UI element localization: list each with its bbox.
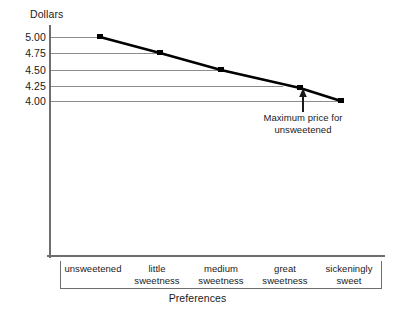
gridlines <box>50 37 341 101</box>
category-line-2: sweetness <box>189 275 253 287</box>
data-point-marker <box>297 85 303 90</box>
data-point-marker <box>157 50 163 55</box>
category-label-medium-sweetness: medium sweetness <box>189 263 253 286</box>
callout-arrow <box>299 88 307 112</box>
category-label-little-sweetness: little sweetness <box>125 263 189 286</box>
data-point-marker <box>218 67 224 72</box>
category-line-1: medium <box>189 263 253 275</box>
series-markers <box>97 34 344 103</box>
data-point-marker <box>338 98 344 103</box>
category-label-unsweetened: unsweetened <box>61 263 125 275</box>
x-axis-title: Preferences <box>0 292 395 304</box>
category-label-great-sweetness: great sweetness <box>253 263 317 286</box>
maximum-price-callout: Maximum price for unsweetened <box>232 112 374 135</box>
chart-figure: Dollars 5.00 4.75 4.50 4.25 4.00 <box>0 0 395 316</box>
category-line-1: great <box>253 263 317 275</box>
category-line-1: unsweetened <box>61 263 125 275</box>
category-line-2: sweetness <box>125 275 189 287</box>
category-label-sickeningly-sweet: sickeningly sweet <box>317 263 381 286</box>
data-point-marker <box>97 34 103 39</box>
callout-line-1: Maximum price for <box>232 112 374 124</box>
category-line-2: sweet <box>317 275 381 287</box>
category-line-1: sickeningly <box>317 263 381 275</box>
category-line-2: sweetness <box>253 275 317 287</box>
category-label-box: unsweetened little sweetness medium swee… <box>60 261 382 289</box>
callout-line-2: unsweetened <box>232 124 374 136</box>
category-line-1: little <box>125 263 189 275</box>
